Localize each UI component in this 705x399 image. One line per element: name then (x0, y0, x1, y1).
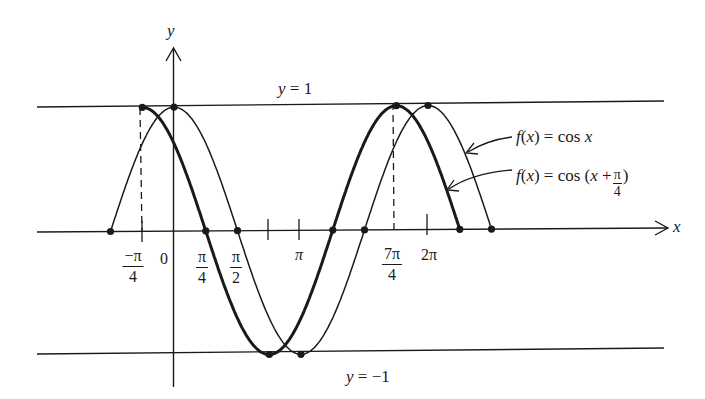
pointer-arrow-cos-shifted (449, 170, 512, 189)
pointer-arrowhead-cos-x-icon (466, 143, 478, 154)
lower-bound-label: y = −1 (346, 368, 390, 385)
legend-cos-x: f(x) = cos x (516, 128, 592, 145)
point-cos-x (488, 226, 495, 233)
x-axis (37, 228, 667, 232)
legend-fraction-pi-4: π4 (613, 168, 622, 199)
cosine-graph (0, 0, 705, 399)
point-cos-shifted (139, 104, 146, 111)
point-cos-shifted (329, 227, 336, 234)
tick-label-2pi: 2π (421, 246, 437, 264)
line-y-equals-1 (37, 101, 664, 107)
tick-label-origin: 0 (160, 250, 168, 268)
tick-label-pi: π (295, 246, 303, 264)
tick-label-pi-4: π 4 (196, 249, 208, 286)
tick-label-neg-pi-4: −π 4 (122, 248, 143, 285)
legend-cos-shifted: f(x) = cos (x +π4) (516, 162, 628, 193)
upper-bound-label: y = 1 (278, 80, 312, 97)
dashed-guide-7pi-4 (393, 103, 394, 230)
pointer-arrowhead-cos-shifted-icon (447, 180, 459, 191)
point-cos-x (107, 228, 114, 235)
point-cos-shifted (266, 351, 273, 358)
point-cos-shifted (202, 227, 209, 234)
y-axis-label: y (167, 22, 175, 39)
point-cos-x (297, 351, 304, 358)
dashed-guide-neg-pi-4 (140, 108, 142, 232)
tick-label-pi-2: π 2 (230, 249, 242, 286)
point-cos-x (361, 226, 368, 233)
line-y-equals-minus-1 (37, 348, 664, 354)
point-cos-x (234, 227, 241, 234)
pointer-arrow-cos-x (468, 137, 512, 152)
x-axis-label: x (673, 218, 681, 235)
point-cos-x (424, 102, 431, 109)
point-cos-x (170, 104, 177, 111)
point-cos-shifted (393, 102, 400, 109)
tick-label-7pi-4: 7π 4 (382, 246, 402, 283)
point-cos-shifted (456, 226, 463, 233)
